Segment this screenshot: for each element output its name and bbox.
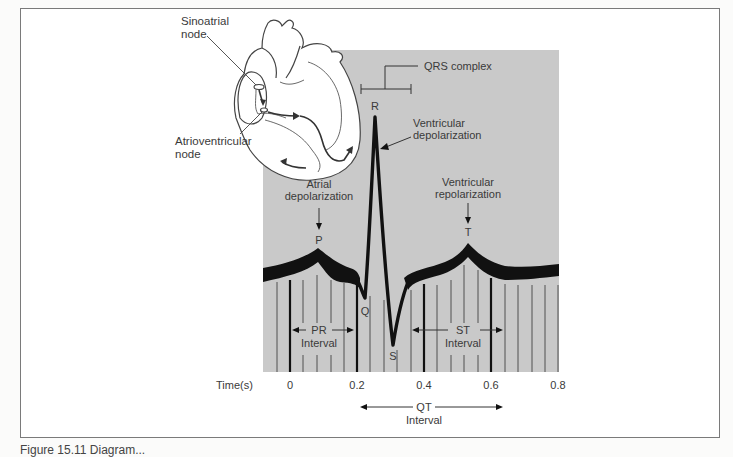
qt-interval-label-2: Interval	[406, 414, 442, 426]
time-axis-label: Time(s)	[216, 379, 253, 391]
av-node-label: Atrioventricular	[175, 135, 252, 147]
ventricular-depolarization-label: Ventricular	[413, 117, 465, 129]
q-wave-label: Q	[361, 305, 370, 317]
r-wave-label: R	[371, 100, 379, 112]
figure-caption: Figure 15.11 Diagram...	[20, 443, 145, 457]
s-wave-label: S	[389, 350, 396, 362]
qt-interval-label: QT	[416, 401, 432, 413]
ventricular-depolarization-label-2: depolarization	[413, 129, 482, 141]
ventricular-repolarization-label: Ventricular	[442, 176, 494, 188]
atrial-depolarization-label-2: depolarization	[285, 190, 354, 202]
pr-interval-label-2: Interval	[301, 337, 337, 349]
t-wave-label: T	[465, 226, 472, 238]
time-tick-1: 0.2	[349, 379, 364, 391]
atrial-depolarization-label: Atrial	[306, 178, 331, 190]
qrs-complex-label: QRS complex	[424, 60, 492, 72]
time-tick-0: 0	[287, 379, 293, 391]
av-node-label-2: node	[175, 148, 201, 160]
st-interval-label: ST	[456, 324, 470, 336]
sa-node-label: Sinoatrial	[181, 15, 229, 27]
p-wave-label: P	[315, 234, 322, 246]
heart-illustration	[234, 20, 360, 180]
pr-interval-label: PR	[311, 324, 326, 336]
time-tick-3: 0.6	[483, 379, 498, 391]
time-tick-2: 0.4	[416, 379, 431, 391]
time-tick-4: 0.8	[550, 379, 565, 391]
ventricular-repolarization-label-2: repolarization	[435, 188, 501, 200]
st-interval-label-2: Interval	[445, 337, 481, 349]
sa-node-label-2: node	[181, 28, 207, 40]
